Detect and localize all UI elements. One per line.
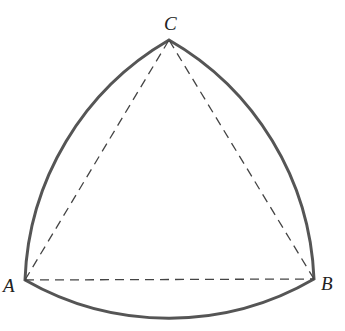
reuleaux-outline [25, 40, 314, 318]
reuleaux-diagram: C A B [0, 0, 345, 331]
vertex-label-c: C [164, 13, 177, 34]
side-ab [25, 279, 314, 280]
side-ac [25, 40, 169, 280]
vertex-label-a: A [1, 275, 15, 296]
side-bc [169, 40, 314, 279]
vertex-label-b: B [321, 273, 333, 294]
